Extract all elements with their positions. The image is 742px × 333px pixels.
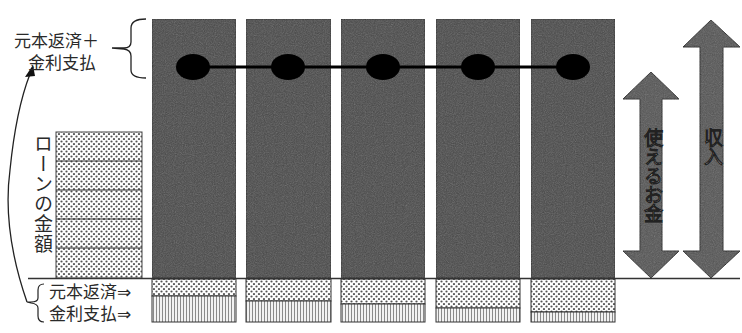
payment-level: [176, 54, 590, 80]
top-brace: [112, 19, 146, 78]
principal-segment-5: [531, 279, 615, 312]
payment-dot-4: [461, 54, 495, 80]
bottom-brace: [27, 284, 44, 322]
principal-label: 元本返済⇒: [49, 282, 131, 302]
principal-segment-4: [436, 279, 520, 308]
usable-money-label: 使えるお金: [639, 128, 666, 223]
payment-dot-3: [366, 54, 400, 80]
principal-segment-1: [152, 279, 236, 296]
principal-segment-2: [246, 279, 331, 301]
loan-amount-label: ローンの金額: [29, 134, 56, 254]
interest-segment-1: [152, 296, 236, 322]
loan-amount-stack: [56, 132, 142, 278]
interest-segment-5: [531, 312, 615, 322]
interest-label: 金利支払⇒: [49, 304, 131, 324]
payment-dot-2: [271, 54, 305, 80]
payment-dot-5: [556, 54, 590, 80]
income-label: 収入: [699, 128, 726, 166]
interest-segment-2: [246, 301, 331, 322]
payment-dot-1: [176, 54, 210, 80]
interest-segment-4: [436, 308, 520, 322]
curved-arrow: [8, 74, 30, 302]
interest-segment-3: [341, 304, 425, 322]
top-label-line-1: 元本返済＋: [14, 31, 99, 51]
payment-segments: [152, 279, 615, 322]
principal-segment-3: [341, 279, 425, 304]
top-label-line-2: 金利支払: [28, 53, 96, 73]
